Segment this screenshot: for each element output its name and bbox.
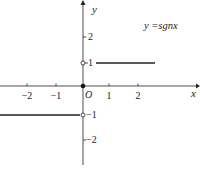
x-tick-label: −1: [51, 90, 62, 101]
open-point-icon: [81, 113, 85, 117]
x-axis-arrow-icon: [196, 84, 200, 89]
x-tick-label: −2: [22, 90, 33, 101]
y-tick-label: 1: [88, 57, 93, 68]
function-label: y =sgnx: [143, 20, 178, 31]
y-axis-label: y: [91, 3, 97, 15]
x-tick-label: 1: [107, 90, 112, 101]
sgn-function-graph: −2 −1 1 2 2 1 −1 −2 y x O y =sgnx: [0, 0, 200, 173]
y-axis-arrow-icon: [81, 0, 86, 5]
x-tick-label: 2: [136, 90, 141, 101]
origin-label: O: [85, 89, 92, 100]
y-tick-label: −1: [86, 109, 97, 120]
y-tick-label: 2: [88, 31, 93, 42]
y-tick-label: −2: [86, 134, 97, 145]
open-point-icon: [81, 61, 85, 65]
x-axis-label: x: [190, 87, 196, 99]
filled-point-icon: [81, 84, 86, 89]
